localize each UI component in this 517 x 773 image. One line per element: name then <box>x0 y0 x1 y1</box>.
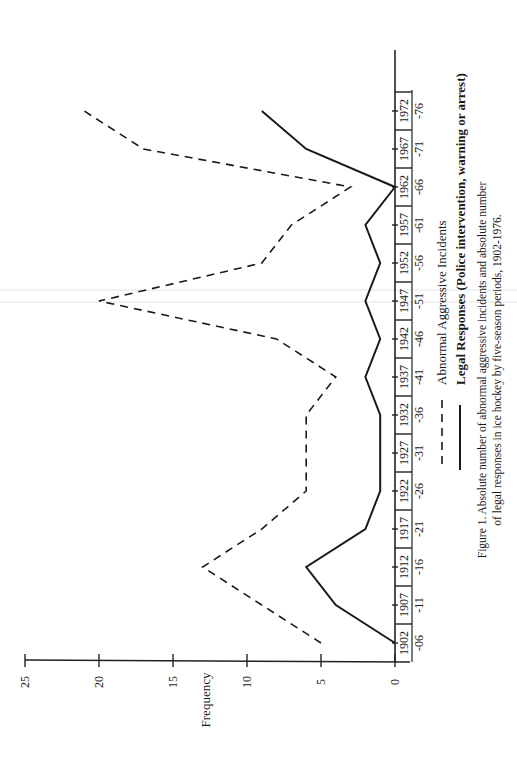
period-label-start: 1922 <box>397 479 411 503</box>
legend-dashed-label: Abnormal Aggressive Incidents <box>434 220 449 385</box>
period-label-start: 1947 <box>397 289 411 313</box>
period-label-end: -31 <box>412 445 426 461</box>
caption-line-2: of legal responses in ice hockey by five… <box>491 214 504 526</box>
period-label-start: 1917 <box>397 517 411 541</box>
period-label-start: 1967 <box>397 137 411 161</box>
period-label-start: 1932 <box>397 403 411 427</box>
period-label-end: -46 <box>412 331 426 347</box>
period-label-end: -51 <box>412 293 426 309</box>
period-label-end: -66 <box>412 179 426 195</box>
period-labels: 1902-061907-111912-161917-211922-261927-… <box>392 92 426 655</box>
period-label-end: -76 <box>412 103 426 119</box>
legend-solid-label: Legal Responses (Police intervention, wa… <box>453 73 468 385</box>
frequency-tick-label: 20 <box>92 676 106 688</box>
line-chart: 0510152025 Frequency 1902-061907-111912-… <box>0 0 517 773</box>
period-label-start: 1942 <box>397 327 411 351</box>
period-label-end: -21 <box>412 521 426 537</box>
frequency-tick-label: 15 <box>166 676 180 688</box>
frequency-tick-label: 0 <box>388 679 402 685</box>
period-label-end: -36 <box>412 407 426 423</box>
legend: Abnormal Aggressive Incidents Legal Resp… <box>434 73 468 470</box>
period-label-start: 1927 <box>397 441 411 465</box>
period-label-start: 1962 <box>397 175 411 199</box>
period-axis: 1902-061907-111912-161917-211922-261927-… <box>392 50 426 662</box>
frequency-axis: 0510152025 Frequency <box>18 654 410 727</box>
period-label-end: -06 <box>412 635 426 651</box>
period-label-end: -61 <box>412 217 426 233</box>
frequency-tick-label: 25 <box>18 676 32 688</box>
period-label-start: 1907 <box>397 593 411 617</box>
figure-caption: Figure 1. Absolute number of abnormal ag… <box>476 182 504 559</box>
period-label-start: 1902 <box>397 631 411 655</box>
period-label-end: -16 <box>412 559 426 575</box>
series-legal-responses <box>262 111 395 643</box>
period-label-end: -41 <box>412 369 426 385</box>
period-label-start: 1937 <box>397 365 411 389</box>
period-label-end: -56 <box>412 255 426 271</box>
period-label-end: -26 <box>412 483 426 499</box>
period-label-start: 1912 <box>397 555 411 579</box>
frequency-axis-label: Frequency <box>198 672 213 727</box>
period-label-end: -71 <box>412 141 426 157</box>
frequency-tick-label: 10 <box>240 676 254 688</box>
period-label-start: 1972 <box>397 99 411 123</box>
period-label-start: 1957 <box>397 213 411 237</box>
period-label-start: 1952 <box>397 251 411 275</box>
period-label-end: -11 <box>412 597 426 613</box>
frequency-tick-label: 5 <box>314 679 328 685</box>
caption-line-1: Figure 1. Absolute number of abnormal ag… <box>476 182 489 559</box>
